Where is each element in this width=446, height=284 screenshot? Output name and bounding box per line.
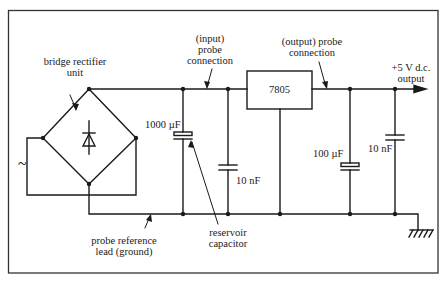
input-decoupling-capacitor-icon [219,89,237,214]
output-capacitor-icon [341,89,359,214]
arrowheads [72,81,328,222]
reservoir-cap-value: 1000 µF [145,119,181,130]
ac-source-icon: ~ [18,158,27,169]
ground-lead-label: probe reference lead (ground) [84,235,164,257]
regulator-label: 7805 [262,84,297,95]
label-line: reservoir [200,227,256,238]
label-line: unit [34,67,116,78]
ac-input-wire [27,138,136,195]
bridge-rectifier-label: bridge rectifier unit [34,56,116,78]
output-arrow-icon [414,86,426,93]
output-voltage-label: +5 V d.c. output [382,62,440,84]
label-line: connection [175,55,245,66]
diode-icon [83,121,95,154]
label-line: (input) [175,33,245,44]
circuit-diagram: bridge rectifier unit (input) probe conn… [0,0,446,284]
ground-rail [89,184,418,230]
junction-dots [41,87,397,216]
label-line: (output) probe [267,36,357,47]
input-probe-label: (input) probe connection [175,33,245,66]
input-decoupling-value: 10 nF [236,175,260,186]
reservoir-capacitor-icon [174,89,192,214]
output-decoupling-value: 10 nF [368,143,392,154]
label-line: lead (ground) [84,246,164,257]
label-line: capacitor [200,238,256,249]
output-cap-value: 100 µF [313,148,343,159]
label-line: bridge rectifier [34,56,116,67]
ground-icon [409,230,433,237]
reservoir-capacitor-label: reservoir capacitor [200,227,256,249]
label-line: +5 V d.c. [382,62,440,73]
label-line: output [382,73,440,84]
output-probe-label: (output) probe connection [267,36,357,58]
label-line: probe [175,44,245,55]
label-line: connection [267,47,357,58]
label-line: probe reference [84,235,164,246]
